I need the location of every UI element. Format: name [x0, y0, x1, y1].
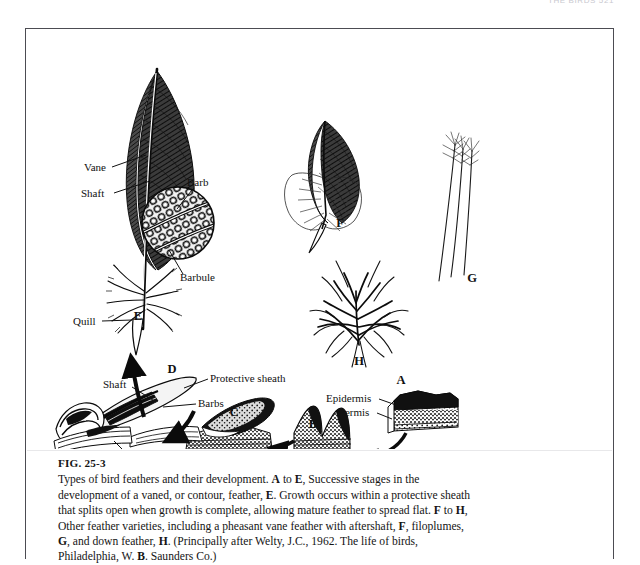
- panel-label-a: A: [396, 373, 405, 387]
- figure-number: FIG. 25-3: [58, 456, 588, 471]
- figure-illustration: E Vane Shaft Barb Barbule: [26, 29, 613, 449]
- svg-text:Shaft: Shaft: [103, 378, 126, 390]
- svg-text:Epidermis: Epidermis: [326, 392, 371, 404]
- panel-label-c: C: [229, 405, 238, 419]
- panel-f-pheasant-feather: F: [285, 121, 362, 253]
- figure-caption: FIG. 25-3 Types of bird feathers and the…: [58, 456, 588, 565]
- panel-label-b: B: [309, 417, 317, 431]
- caption-line: Other feather varieties, including a phe…: [58, 519, 588, 534]
- callout-quill: Quill: [73, 315, 132, 327]
- panel-label-f: F: [336, 216, 344, 230]
- panel-label-h: H: [354, 354, 364, 368]
- panel-h-down-feather: H: [310, 261, 408, 368]
- svg-text:Barbule: Barbule: [180, 271, 215, 283]
- running-head: THE BIRDS 521: [548, 0, 614, 5]
- panel-label-e: E: [134, 309, 142, 323]
- callout-epidermis: Epidermis: [326, 392, 396, 405]
- svg-text:Barb: Barb: [187, 176, 209, 188]
- panel-label-d: D: [167, 362, 176, 376]
- caption-line: that splits open when growth is complete…: [58, 503, 588, 518]
- arrow-a-to-b: [360, 433, 406, 449]
- svg-text:Barbs: Barbs: [198, 397, 224, 409]
- panel-b-papilla: B: [294, 406, 351, 449]
- caption-line: Types of bird feathers and their develop…: [58, 472, 588, 487]
- caption-line: G, and down feather, H. (Principally aft…: [58, 534, 588, 549]
- panel-a-skin-section: A: [388, 373, 458, 433]
- svg-text:Protective sheath: Protective sheath: [210, 372, 286, 384]
- panel-g-filoplumes: G: [439, 132, 479, 285]
- panel-e-contour-feather: E: [106, 69, 220, 355]
- caption-line: Philadelphia, W. B. Saunders Co.): [58, 549, 588, 564]
- caption-divider: [27, 450, 612, 451]
- callout-protective-sheath: Protective sheath: [184, 372, 286, 388]
- figure-frame: E Vane Shaft Barb Barbule: [25, 28, 614, 559]
- svg-text:Shaft: Shaft: [81, 187, 104, 199]
- svg-text:Vane: Vane: [84, 161, 106, 173]
- svg-text:Quill: Quill: [73, 315, 96, 327]
- caption-line: development of a vaned, or contour, feat…: [58, 488, 588, 503]
- panel-label-g: G: [467, 271, 477, 285]
- arrow-b-to-c: [270, 441, 294, 448]
